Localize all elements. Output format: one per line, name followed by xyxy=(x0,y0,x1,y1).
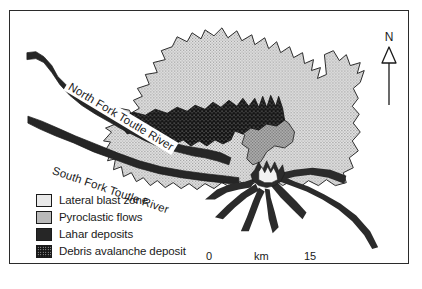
scale-bar: 0 km 15 xyxy=(206,250,328,264)
legend-label-lahar-deposits: Lahar deposits xyxy=(59,228,133,241)
legend-swatch-lahar-deposits xyxy=(36,228,52,241)
legend-swatch-debris-avalanche-deposit xyxy=(36,245,52,258)
legend-item-lateral-blast-zone: Lateral blast zone xyxy=(36,192,221,209)
scale-bar-label-unit: km xyxy=(254,250,269,262)
legend-item-debris-avalanche-deposit: Debris avalanche deposit xyxy=(36,243,221,260)
scale-bar-label-zero: 0 xyxy=(206,250,212,262)
legend-label-pyroclastic-flows: Pyroclastic flows xyxy=(59,211,142,224)
map-legend: Lateral blast zone Pyroclastic flows Lah… xyxy=(36,192,221,260)
map-figure: North Fork Toutle River South Fork Toutl… xyxy=(0,0,422,289)
map-frame: North Fork Toutle River South Fork Toutl… xyxy=(9,10,409,264)
legend-item-lahar-deposits: Lahar deposits xyxy=(36,226,221,243)
legend-swatch-lateral-blast-zone xyxy=(36,194,52,207)
north-arrow-icon xyxy=(379,45,399,107)
scale-bar-label-max: 15 xyxy=(304,250,316,262)
legend-swatch-pyroclastic-flows xyxy=(36,211,52,224)
legend-label-debris-avalanche-deposit: Debris avalanche deposit xyxy=(59,245,186,258)
scale-bar-labels: 0 km 15 xyxy=(206,250,328,264)
legend-label-lateral-blast-zone: Lateral blast zone xyxy=(59,194,148,207)
legend-item-pyroclastic-flows: Pyroclastic flows xyxy=(36,209,221,226)
north-arrow: N xyxy=(378,31,400,111)
north-arrow-label: N xyxy=(378,31,400,44)
